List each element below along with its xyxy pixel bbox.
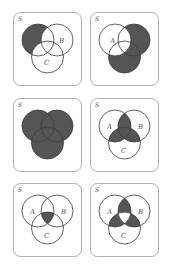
set-b-label: B xyxy=(60,208,66,216)
set-a-label: A xyxy=(32,123,38,131)
set-a-label: A xyxy=(32,37,38,45)
universe-label: S xyxy=(18,15,22,22)
set-c-label: C xyxy=(44,59,50,67)
set-b-label: B xyxy=(137,123,143,131)
set-c-label: C xyxy=(121,232,127,240)
set-c-label: C xyxy=(121,147,127,155)
universe-label: S xyxy=(95,15,99,22)
set-c-label: C xyxy=(44,145,50,153)
set-b-label: B xyxy=(58,37,64,45)
venn-panel-4: S A B C xyxy=(90,98,159,172)
venn-panel-1: S A B C xyxy=(13,12,82,86)
venn-panel-5: S A B C xyxy=(13,183,82,257)
set-b-label: B xyxy=(135,37,141,45)
set-c-label: C xyxy=(44,232,50,240)
set-b-label: B xyxy=(137,208,143,216)
venn-panel-3: S A B C xyxy=(13,98,82,172)
set-c-label: C xyxy=(121,59,127,67)
set-a-label: A xyxy=(106,208,112,216)
universe-label: S xyxy=(95,186,99,193)
set-a-label: A xyxy=(109,37,115,45)
set-b-label: B xyxy=(58,123,64,131)
set-a-label: A xyxy=(29,208,35,216)
universe-label: S xyxy=(95,101,99,108)
venn-panel-2: S A B C xyxy=(90,12,159,86)
universe-label: S xyxy=(18,186,22,193)
set-a-label: A xyxy=(106,123,112,131)
venn-panel-6: S A B C xyxy=(90,183,159,257)
universe-label: S xyxy=(18,101,22,108)
